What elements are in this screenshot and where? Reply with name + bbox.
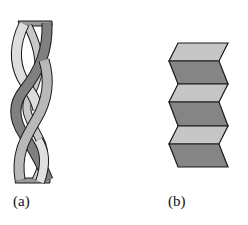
helix-panel: (a) [0, 0, 124, 225]
helix-diagram [0, 0, 124, 225]
pleated-sheet-panel: (b) [124, 0, 248, 225]
panel-b-label: (b) [168, 193, 186, 210]
panel-a-label: (a) [13, 193, 30, 210]
pleated-sheet-diagram [124, 0, 248, 225]
